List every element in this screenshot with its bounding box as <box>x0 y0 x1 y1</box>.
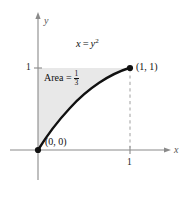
figure-graphic <box>0 0 188 197</box>
point-label-one-one: (1, 1) <box>136 62 158 72</box>
curve-equation-label: x=y2 <box>76 39 99 50</box>
y-axis-label: y <box>44 16 48 26</box>
area-label-text: Area = <box>44 73 72 83</box>
area-fraction-denominator: 3 <box>74 78 80 87</box>
point-marker-origin <box>35 147 41 153</box>
area-fraction: 1 3 <box>74 70 80 86</box>
x-axis-arrowhead <box>164 147 171 152</box>
area-fraction-numerator: 1 <box>74 70 80 78</box>
figure-canvas: y x 1 1 x=y2 Area = 1 3 (1, 1) (0, 0) <box>0 0 188 197</box>
equation-right-side-exponent: 2 <box>95 37 99 45</box>
equation-equals-sign: = <box>83 38 89 49</box>
point-marker-one-one <box>127 65 133 71</box>
point-label-origin: (0, 0) <box>45 137 67 147</box>
equation-left-side: x <box>76 38 81 49</box>
area-value-label: Area = 1 3 <box>44 70 79 86</box>
x-axis-label: x <box>174 145 178 155</box>
y-axis-tick-label-1: 1 <box>26 63 31 73</box>
y-axis-arrowhead <box>35 12 40 19</box>
x-axis-tick-label-1: 1 <box>127 158 132 168</box>
